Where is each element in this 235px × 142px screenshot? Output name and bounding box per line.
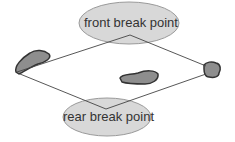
right-blob — [204, 62, 220, 77]
front-break-point-label: front break point — [84, 15, 176, 30]
rear-break-point-label: rear break point — [63, 109, 153, 124]
middle-blob — [120, 71, 158, 84]
